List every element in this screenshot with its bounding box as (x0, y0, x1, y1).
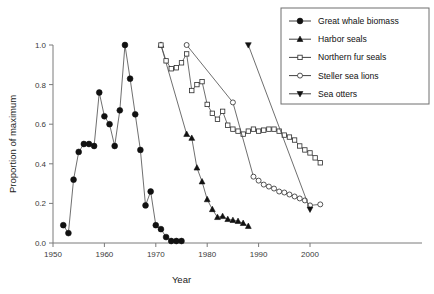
data-point (261, 182, 266, 187)
y-tick-label: 0.4 (35, 160, 47, 169)
data-point (112, 143, 118, 149)
y-tick-label: 0.0 (35, 239, 47, 248)
data-point (60, 222, 66, 228)
data-point (137, 147, 143, 153)
data-point (71, 177, 77, 183)
data-point (272, 127, 276, 131)
data-point (102, 113, 108, 119)
data-point (272, 186, 277, 191)
data-point (297, 196, 302, 201)
marine-mammal-decline-chart: 1950196019701980199020000.00.20.40.60.81… (0, 0, 434, 294)
data-point (169, 67, 173, 71)
data-point (251, 127, 255, 131)
data-point (220, 213, 226, 218)
series-great-whale-biomass (60, 42, 184, 244)
legend-label: Great whale biomass (318, 16, 399, 26)
data-point (153, 222, 159, 228)
y-tick-label: 0.2 (35, 199, 47, 208)
data-point (158, 226, 164, 232)
data-point (262, 128, 266, 132)
data-point (164, 59, 168, 63)
data-point (184, 52, 188, 56)
data-point (220, 109, 224, 113)
data-point (91, 143, 97, 149)
data-point (204, 196, 210, 201)
chart-figure: 1950196019701980199020000.00.20.40.60.81… (0, 0, 434, 294)
data-point (292, 138, 296, 142)
data-point (287, 192, 292, 197)
legend-label: Northern fur seals (318, 52, 386, 62)
data-point (209, 206, 215, 211)
data-point (266, 184, 271, 189)
data-point (107, 121, 113, 127)
data-point (195, 82, 199, 86)
plot-area: 1950196019701980199020000.00.20.40.60.81… (7, 8, 429, 285)
x-axis-title: Year (172, 274, 191, 285)
data-point (313, 156, 317, 160)
data-point (298, 73, 303, 78)
data-point (236, 129, 240, 133)
data-point (267, 127, 271, 131)
data-point (318, 202, 323, 207)
data-point (132, 111, 138, 117)
data-point (297, 18, 303, 24)
x-tick-label: 1960 (96, 250, 114, 259)
data-point (307, 207, 313, 212)
legend-label: Sea otters (318, 89, 357, 99)
data-point (230, 100, 235, 105)
data-point (163, 234, 169, 240)
y-tick-label: 0.6 (35, 120, 47, 129)
data-point (174, 66, 178, 70)
data-point (190, 88, 194, 92)
data-point (96, 90, 102, 96)
data-point (277, 189, 282, 194)
y-axis-title: Proportion of maximum (7, 95, 18, 193)
x-tick-label: 2000 (301, 250, 319, 259)
data-point (318, 161, 322, 165)
data-point (159, 43, 163, 47)
data-point (308, 151, 312, 155)
data-point (127, 76, 133, 82)
legend: Great whale biomassHarbor sealsNorthern … (281, 8, 429, 104)
data-point (148, 189, 154, 195)
data-point (122, 42, 128, 48)
x-tick-label: 1970 (147, 250, 165, 259)
data-point (298, 144, 302, 148)
y-tick-label: 1.0 (35, 41, 47, 50)
data-point (298, 55, 302, 59)
data-point (199, 179, 205, 184)
legend-label: Steller sea lions (318, 71, 379, 81)
data-point (210, 111, 214, 115)
data-point (66, 230, 72, 236)
data-point (282, 190, 287, 195)
data-point (245, 43, 251, 48)
data-point (76, 149, 82, 155)
data-point (189, 135, 195, 140)
data-point (226, 123, 230, 127)
data-point (292, 194, 297, 199)
data-point (200, 79, 204, 83)
legend-label: Harbor seals (318, 34, 367, 44)
data-point (256, 129, 260, 133)
x-tick-label: 1980 (198, 250, 216, 259)
data-point (215, 117, 219, 121)
data-point (256, 178, 261, 183)
data-point (251, 174, 256, 179)
data-point (143, 202, 149, 208)
data-point (205, 102, 209, 106)
series-path (161, 45, 248, 226)
y-tick-label: 0.8 (35, 81, 47, 90)
data-point (117, 107, 123, 113)
data-point (246, 129, 250, 133)
data-point (184, 43, 189, 48)
data-point (231, 127, 235, 131)
data-point (179, 238, 185, 244)
data-point (179, 61, 183, 65)
data-point (194, 165, 200, 170)
data-point (287, 135, 291, 139)
data-point (184, 131, 190, 136)
x-tick-label: 1990 (250, 250, 268, 259)
data-point (303, 148, 307, 152)
x-tick-label: 1950 (44, 250, 62, 259)
